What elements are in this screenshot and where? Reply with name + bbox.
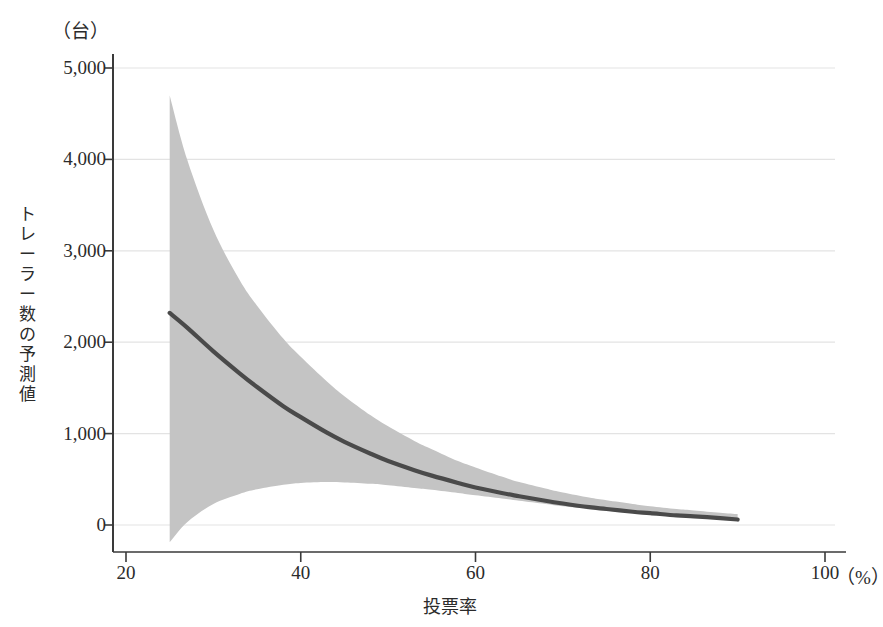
y-tick-label: 1,000 bbox=[28, 423, 106, 445]
y-tick-label: 2,000 bbox=[28, 331, 106, 353]
x-tick-label: 20 bbox=[117, 562, 136, 584]
x-tick-label: 80 bbox=[641, 562, 660, 584]
confidence-band-area bbox=[170, 95, 738, 542]
y-tick-label-group: 5,000 4,000 3,000 2,000 1,000 0 bbox=[22, 0, 106, 627]
y-tick-label: 3,000 bbox=[28, 240, 106, 262]
x-tick-label: 100 bbox=[811, 562, 840, 584]
confidence-band bbox=[170, 95, 738, 542]
x-axis-title: 投票率 bbox=[0, 592, 883, 618]
y-tick-label: 5,000 bbox=[28, 57, 106, 79]
plot-area bbox=[0, 0, 883, 627]
x-axis-title-text: 投票率 bbox=[423, 597, 477, 617]
x-tick-label: 40 bbox=[291, 562, 310, 584]
x-axis-unit-label: （%） bbox=[836, 562, 883, 589]
y-tick-label: 0 bbox=[28, 514, 106, 536]
x-tick-label: 60 bbox=[466, 562, 485, 584]
y-tick-label: 4,000 bbox=[28, 148, 106, 170]
chart-figure: （台） トレーラー数の予測値 5,000 4,000 3,000 2,000 1… bbox=[0, 0, 883, 627]
